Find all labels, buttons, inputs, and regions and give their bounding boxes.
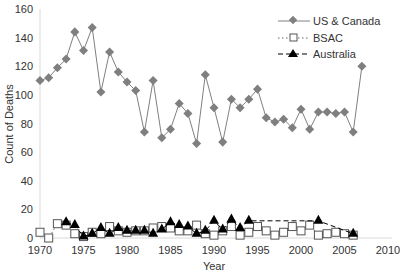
triangle-marker-icon — [288, 49, 298, 57]
data-point — [45, 234, 53, 242]
y-axis-label: Count of Deaths — [3, 84, 15, 164]
series-line — [40, 28, 362, 144]
data-point — [244, 215, 254, 224]
data-point — [305, 125, 314, 134]
y-tick-label: 160 — [15, 3, 33, 15]
data-point — [254, 223, 262, 231]
data-point — [297, 227, 305, 235]
data-point — [36, 228, 44, 236]
legend-label: BSAC — [313, 32, 343, 44]
x-tick-label: 1975 — [71, 244, 95, 256]
data-point — [105, 47, 114, 56]
data-point — [331, 109, 340, 118]
data-point — [341, 230, 349, 238]
legend-label: US & Canada — [313, 15, 381, 27]
legend-label: Australia — [313, 48, 357, 60]
data-point — [192, 139, 201, 148]
data-point — [35, 76, 44, 85]
data-point — [209, 103, 218, 112]
data-point — [349, 128, 358, 137]
x-tick-label: 2010 — [376, 244, 400, 256]
data-point — [70, 219, 80, 228]
legend-item-bsac: BSAC — [278, 32, 343, 44]
data-point — [245, 228, 253, 236]
data-point — [313, 215, 323, 224]
x-tick-label: 2005 — [332, 244, 356, 256]
square-marker-icon — [290, 34, 297, 41]
y-tick-label: 0 — [27, 232, 33, 244]
data-point — [210, 231, 218, 239]
x-tick-label: 1970 — [28, 244, 52, 256]
data-point — [332, 228, 340, 236]
data-point — [140, 128, 149, 137]
x-axis-label: Year — [203, 260, 226, 272]
x-tick-label: 1985 — [158, 244, 182, 256]
data-point — [209, 215, 219, 224]
data-point — [296, 105, 305, 114]
data-point — [71, 230, 79, 238]
legend-item-us-canada: US & Canada — [278, 15, 381, 27]
x-tick-label: 1995 — [245, 244, 269, 256]
data-point — [306, 221, 314, 229]
data-point — [323, 108, 332, 117]
data-point — [53, 220, 61, 228]
data-point — [314, 108, 323, 117]
data-point — [227, 223, 235, 231]
data-point — [226, 213, 236, 222]
data-point — [323, 230, 331, 238]
data-point — [70, 27, 79, 36]
y-tick-label: 60 — [21, 146, 33, 158]
data-point — [166, 216, 176, 225]
chart: 020406080100120140160 197019751980198519… — [0, 0, 400, 275]
data-point — [262, 113, 271, 122]
data-point — [174, 219, 184, 228]
data-point — [271, 231, 279, 239]
y-tick-label: 40 — [21, 175, 33, 187]
y-tick-label: 100 — [15, 89, 33, 101]
data-point — [314, 231, 322, 239]
data-point — [96, 222, 106, 231]
data-point — [357, 62, 366, 71]
diamond-marker-icon — [289, 16, 297, 24]
data-point — [270, 118, 279, 127]
x-tick-label: 1980 — [115, 244, 139, 256]
data-point — [88, 23, 97, 32]
data-point — [201, 70, 210, 79]
x-tick-label: 2000 — [289, 244, 313, 256]
data-point — [262, 227, 270, 235]
data-point — [236, 231, 244, 239]
x-tick-label: 1990 — [202, 244, 226, 256]
y-tick-labels: 020406080100120140160 — [15, 3, 33, 244]
data-point — [288, 223, 296, 231]
data-point — [235, 222, 245, 231]
y-tick-label: 140 — [15, 32, 33, 44]
y-tick-label: 120 — [15, 60, 33, 72]
data-point — [96, 87, 105, 96]
data-point — [149, 76, 158, 85]
x-tick-labels: 197019751980198519901995200020052010 — [28, 244, 400, 256]
legend-item-australia: Australia — [278, 48, 357, 60]
y-tick-label: 20 — [21, 203, 33, 215]
y-tick-label: 80 — [21, 118, 33, 130]
data-point — [280, 228, 288, 236]
data-point — [340, 108, 349, 117]
data-point — [79, 46, 88, 55]
legend: US & Canada BSAC Australia — [278, 15, 381, 60]
data-point — [183, 221, 193, 230]
data-point — [218, 138, 227, 147]
